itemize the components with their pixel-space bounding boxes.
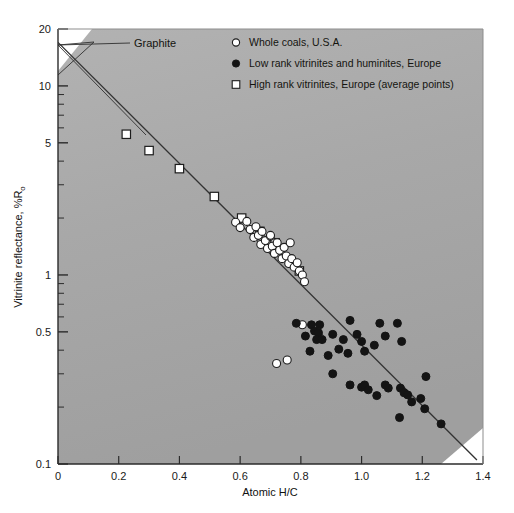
legend-marker-open-circle — [232, 39, 239, 46]
x-tick-label: 0.8 — [293, 470, 308, 482]
legend-marker-filled-circle — [232, 60, 239, 67]
data-point-open-circle — [301, 278, 309, 286]
data-point-open-circle — [293, 259, 301, 267]
data-point-filled-circle — [421, 405, 429, 413]
y-tick-label: 1 — [45, 269, 51, 281]
figure-root: 0.10.5151020 00.20.40.60.81.01.21.4 Grap… — [0, 0, 514, 513]
data-point-filled-circle — [324, 351, 332, 359]
x-axis-title: Atomic H/C — [242, 486, 298, 498]
data-point-filled-circle — [393, 319, 401, 327]
data-point-open-square — [210, 192, 218, 200]
data-point-filled-circle — [381, 332, 389, 340]
data-point-filled-circle — [358, 337, 366, 345]
legend-entry-label: Low rank vitrinites and huminites, Europ… — [249, 57, 441, 69]
y-tick-label: 20 — [39, 23, 51, 35]
y-tick-label: 5 — [45, 137, 51, 149]
data-point-filled-circle — [370, 341, 378, 349]
legend-entry-label: Whole coals, U.S.A. — [249, 36, 342, 48]
data-point-filled-circle — [398, 337, 406, 345]
data-point-filled-circle — [339, 336, 347, 344]
data-point-filled-circle — [318, 336, 326, 344]
data-point-filled-circle — [396, 414, 404, 422]
y-tick-label: 0.1 — [36, 458, 51, 470]
data-point-open-square — [145, 146, 153, 154]
data-point-filled-circle — [329, 330, 337, 338]
data-point-open-circle — [286, 239, 294, 247]
data-point-filled-circle — [353, 330, 361, 338]
data-point-filled-circle — [329, 370, 337, 378]
data-point-filled-circle — [335, 345, 343, 353]
data-point-filled-circle — [373, 392, 381, 400]
data-point-open-square — [122, 130, 130, 138]
vitrinite-reflectance-scatter-chart: 0.10.5151020 00.20.40.60.81.01.21.4 Grap… — [0, 0, 514, 513]
data-point-filled-circle — [346, 381, 354, 389]
data-point-filled-circle — [344, 349, 352, 357]
y-tick-label: 0.5 — [36, 326, 51, 338]
data-point-filled-circle — [292, 319, 300, 327]
data-point-open-circle — [273, 360, 281, 368]
data-point-open-circle — [283, 356, 291, 364]
data-point-filled-circle — [422, 373, 430, 381]
data-point-filled-circle — [381, 381, 389, 389]
data-point-filled-circle — [376, 319, 384, 327]
x-tick-label: 0 — [55, 470, 61, 482]
x-tick-label: 1.0 — [354, 470, 369, 482]
graphite-label: Graphite — [134, 37, 176, 49]
data-point-filled-circle — [346, 316, 354, 324]
y-axis-title-subscript: o — [18, 186, 27, 191]
x-tick-label: 0.4 — [172, 470, 187, 482]
data-point-open-circle — [236, 224, 244, 232]
data-point-filled-circle — [306, 347, 314, 355]
y-axis-title-base: Vitrinite reflectance, %R — [12, 191, 24, 308]
data-point-filled-circle — [417, 395, 425, 403]
x-tick-label: 1.2 — [415, 470, 430, 482]
data-point-filled-circle — [408, 398, 416, 406]
legend-entry-label: High rank vitrinites, Europe (average po… — [249, 78, 454, 90]
data-point-open-circle — [267, 231, 275, 239]
y-tick-label: 10 — [39, 80, 51, 92]
data-point-filled-circle — [316, 321, 324, 329]
x-tick-label: 0.6 — [232, 470, 247, 482]
data-point-filled-circle — [301, 332, 309, 340]
data-point-open-circle — [243, 217, 251, 225]
data-point-open-square — [175, 164, 183, 172]
data-point-filled-circle — [364, 386, 372, 394]
data-point-open-circle — [258, 227, 266, 235]
data-point-filled-circle — [361, 347, 369, 355]
data-point-filled-circle — [437, 420, 445, 428]
legend-marker-open-square — [232, 81, 240, 89]
x-tick-label: 1.4 — [475, 470, 490, 482]
x-tick-label: 0.2 — [111, 470, 126, 482]
